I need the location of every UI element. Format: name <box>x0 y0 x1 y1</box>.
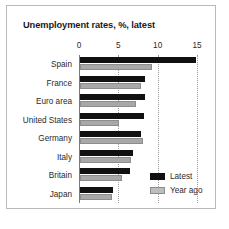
bar-japan-latest <box>80 187 113 193</box>
bar-group <box>79 150 197 165</box>
x-tick-label-5: 5 <box>116 41 121 50</box>
bar-spain-latest <box>80 57 196 63</box>
bar-united-states-latest <box>80 113 144 119</box>
bar-britain-year-ago <box>80 175 122 181</box>
bar-group <box>79 94 197 109</box>
legend-label: Latest <box>170 172 192 181</box>
legend-item: Year ago <box>150 184 202 196</box>
bar-group <box>79 76 197 91</box>
legend-label: Year ago <box>170 186 202 195</box>
category-label-germany: Germany <box>38 134 72 143</box>
bar-japan-year-ago <box>80 194 112 200</box>
bar-germany-year-ago <box>80 138 143 144</box>
x-tick-label-10: 10 <box>153 41 162 50</box>
bar-italy-year-ago <box>80 157 131 163</box>
gray-square-icon <box>150 187 165 194</box>
bar-france-year-ago <box>80 83 141 89</box>
category-label-france: France <box>47 78 72 87</box>
x-axis-tick-labels: 051015 <box>79 41 197 53</box>
category-label-spain: Spain <box>51 60 72 69</box>
bar-group <box>79 131 197 146</box>
chart-figure: Unemployment rates, %, latest 051015 Spa… <box>0 0 229 229</box>
category-label-euro-area: Euro area <box>36 97 72 106</box>
category-label-japan: Japan <box>50 189 72 198</box>
x-tick-label-0: 0 <box>77 41 82 50</box>
bar-italy-latest <box>80 150 133 156</box>
y-axis-category-labels: SpainFranceEuro areaUnited StatesGermany… <box>8 55 76 203</box>
bar-united-states-year-ago <box>80 120 119 126</box>
bar-britain-latest <box>80 168 130 174</box>
legend-item: Latest <box>150 170 202 182</box>
bar-euro-area-year-ago <box>80 101 136 107</box>
category-label-united-states: United States <box>23 115 72 124</box>
bar-euro-area-latest <box>80 94 145 100</box>
bar-france-latest <box>80 76 145 82</box>
black-square-icon <box>150 173 165 180</box>
bar-group <box>79 57 197 72</box>
category-label-britain: Britain <box>49 171 72 180</box>
bar-germany-latest <box>80 131 141 137</box>
chart-legend: LatestYear ago <box>150 170 202 198</box>
x-tick-label-15: 15 <box>192 41 201 50</box>
bar-spain-year-ago <box>80 64 152 70</box>
chart-title: Unemployment rates, %, latest <box>23 20 155 30</box>
category-label-italy: Italy <box>57 152 72 161</box>
bar-group <box>79 113 197 128</box>
